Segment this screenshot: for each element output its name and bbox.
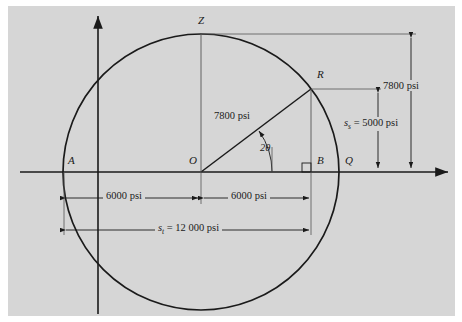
- point-label-R: R: [317, 68, 324, 80]
- radius-label: 7800 psi: [214, 110, 250, 121]
- point-label-B: B: [317, 154, 324, 166]
- axes: [20, 16, 448, 314]
- diameter-value: = 12 000 psi: [164, 222, 219, 233]
- dimension-label-shear: ss = 5000 psi: [342, 117, 400, 131]
- shear-value: = 5000 psi: [351, 117, 398, 128]
- mohrs-circle-figure: A O B Q Z R 7800 psi 2θ 6000 psi 6000 ps…: [0, 0, 462, 322]
- angle-label: 2θ: [260, 142, 270, 153]
- point-label-Z: Z: [198, 14, 204, 26]
- dimension-label-right-6000: 6000 psi: [228, 190, 270, 201]
- construction-lines: [98, 34, 311, 172]
- point-label-O: O: [189, 154, 197, 166]
- dimension-label-left-6000: 6000 psi: [103, 190, 145, 201]
- point-label-A: A: [68, 154, 75, 166]
- dimension-label-outer-7800: 7800 psi: [381, 80, 421, 91]
- dimension-label-diameter: st = 12 000 psi: [155, 222, 222, 236]
- point-label-Q: Q: [345, 154, 353, 166]
